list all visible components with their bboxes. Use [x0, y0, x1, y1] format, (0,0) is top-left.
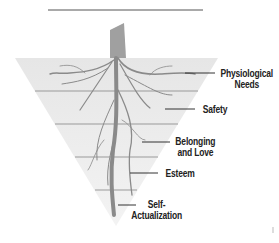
label-line: Physiological	[217, 68, 277, 79]
label-line: Needs	[217, 79, 277, 90]
label-self-actualization: Self- Actualization	[126, 199, 187, 221]
label-physiological-needs: Physiological Needs	[217, 68, 277, 90]
label-line: Actualization	[126, 210, 187, 221]
label-line: and Love	[172, 147, 219, 158]
label-line: Self-	[126, 199, 187, 210]
label-line: Safety	[198, 104, 232, 115]
label-belonging-and-love: Belonging and Love	[172, 136, 219, 158]
label-line: Esteem	[161, 168, 199, 179]
tree-trunk	[110, 23, 126, 58]
label-esteem: Esteem	[161, 168, 199, 179]
label-line: Belonging	[172, 136, 219, 147]
label-safety: Safety	[198, 104, 232, 115]
